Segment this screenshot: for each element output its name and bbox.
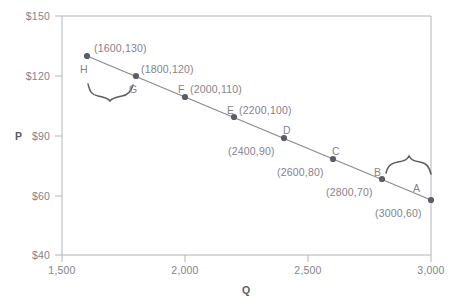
point-letter-E: E <box>227 104 234 116</box>
brace-left-icon <box>88 84 133 101</box>
point-coord-B: (2800,70) <box>326 186 373 198</box>
x-tick-label-2500: 2,500 <box>278 264 338 276</box>
x-tick-label-2000: 2,000 <box>155 264 215 276</box>
x-tick-label-3000: 3,000 <box>401 264 453 276</box>
point-letter-D: D <box>283 124 291 136</box>
point-coord-H: (1600,130) <box>94 42 147 54</box>
y-tick-label-120: $120 <box>14 70 50 82</box>
point-coord-E: (2200,100) <box>239 104 292 116</box>
x-axis-ticks <box>62 255 431 262</box>
point-letter-C: C <box>332 145 340 157</box>
point-letter-A: A <box>413 182 420 194</box>
x-tick-label-1500: 1,500 <box>32 264 92 276</box>
y-tick-label-60: $60 <box>14 190 50 202</box>
point-coord-G: (1800,120) <box>141 63 194 75</box>
y-tick-label-150: $150 <box>14 10 50 22</box>
x-axis-title: Q <box>242 284 250 296</box>
data-point-H <box>84 53 90 59</box>
point-letter-B: B <box>374 166 381 178</box>
point-coord-C: (2600,80) <box>277 166 324 178</box>
point-coord-D: (2400,90) <box>228 145 275 157</box>
demand-curve-chart: $150 $120 $90 $60 $40 1,500 2,000 2,500 … <box>0 0 453 304</box>
y-tick-label-40: $40 <box>14 249 50 261</box>
point-coord-A: (3000,60) <box>375 207 422 219</box>
data-point-G <box>133 73 139 79</box>
y-axis-ticks <box>55 16 62 255</box>
point-coord-F: (2000,110) <box>190 83 242 95</box>
point-letter-F: F <box>178 83 185 95</box>
plot-area <box>0 0 453 304</box>
y-axis-title: P <box>15 130 22 142</box>
brace-right-icon <box>386 156 431 174</box>
point-letter-H: H <box>80 63 88 75</box>
data-point-A <box>428 197 434 203</box>
point-letter-G: G <box>129 83 137 95</box>
